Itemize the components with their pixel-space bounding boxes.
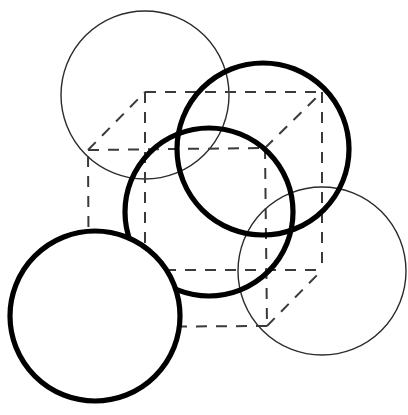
figure-canvas <box>0 0 408 415</box>
layer-bottom-left-circle <box>10 231 180 401</box>
geometry-drawing <box>0 0 408 415</box>
